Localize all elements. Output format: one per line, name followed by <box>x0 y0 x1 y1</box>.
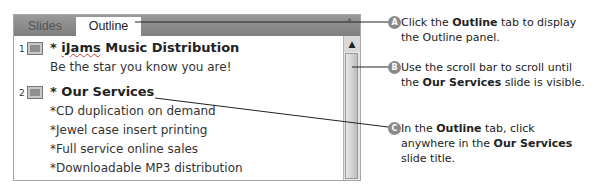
slide-number: 1 <box>19 44 25 54</box>
callout-badge-b: B <box>388 61 401 74</box>
title-text: Our Services <box>61 84 154 99</box>
callout-badge-a: A <box>388 16 401 29</box>
slide-title-our-services[interactable]: * Our Services <box>50 84 154 99</box>
tab-slides[interactable]: Slides <box>14 17 76 36</box>
callout-c: In the Outline tab, click anywhere in th… <box>401 121 591 166</box>
title-bullet: * <box>50 40 61 55</box>
bullet-item[interactable]: *CD duplication on demand <box>50 104 216 118</box>
slide-icon[interactable] <box>27 42 43 55</box>
tab-bar: Slides Outline ˄ <box>14 15 360 36</box>
title-bullet: * <box>50 84 61 99</box>
outline-content[interactable]: 1 * iJams Music Distribution Be the star… <box>14 36 344 180</box>
title-text: Music Distribution <box>101 40 240 55</box>
slide-icon[interactable] <box>27 86 43 99</box>
callout-b: Use the scroll bar to scroll until the O… <box>401 60 591 90</box>
slide-title[interactable]: * iJams Music Distribution <box>50 40 239 55</box>
scroll-thumb[interactable] <box>345 53 358 179</box>
slide-number: 2 <box>19 88 25 98</box>
vertical-scrollbar[interactable]: ▲ <box>343 36 360 180</box>
callout-a: Click the Outline tab to display the Out… <box>401 15 591 45</box>
callout-badge-c: C <box>388 122 401 135</box>
bullet-item[interactable]: *Full service online sales <box>50 142 198 156</box>
tab-outline[interactable]: Outline <box>76 17 141 37</box>
misspelled-word: iJams <box>61 40 100 55</box>
bullet-item[interactable]: *Jewel case insert printing <box>50 123 207 137</box>
slide-subtitle[interactable]: Be the star you know you are! <box>50 60 231 74</box>
chevron-up-icon[interactable]: ˄ <box>347 18 352 29</box>
scroll-up-arrow-icon[interactable]: ▲ <box>344 36 360 52</box>
outline-panel: Slides Outline ˄ 1 * iJams Music Distrib… <box>13 14 361 181</box>
bullet-item[interactable]: *Downloadable MP3 distribution <box>50 161 243 175</box>
